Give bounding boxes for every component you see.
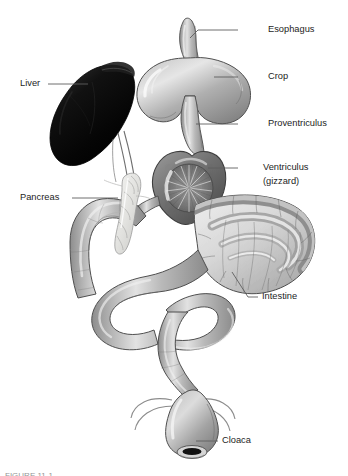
label-pancreas: Pancreas [20,192,60,202]
label-proventriculus: Proventriculus [268,118,327,128]
label-ventriculus-gizzard: (gizzard) [263,176,299,186]
label-crop: Crop [268,71,288,81]
avian-digestive-tract-diagram: Esophagus Crop Proventriculus Ventriculu… [0,0,348,476]
figure-caption-partial: FIGURE 11-1 [5,471,155,476]
figure-root: Esophagus Crop Proventriculus Ventriculu… [0,0,348,476]
label-cloaca: Cloaca [222,435,252,445]
organ-intestine-coil [190,193,315,294]
organ-esophagus [180,18,199,63]
label-esophagus: Esophagus [268,24,315,34]
leader-esophagus [190,30,238,38]
organ-cloaca [166,390,219,459]
label-ventriculus: Ventriculus [263,162,309,172]
label-liver: Liver [20,78,40,88]
label-intestine: Intestine [262,291,297,301]
